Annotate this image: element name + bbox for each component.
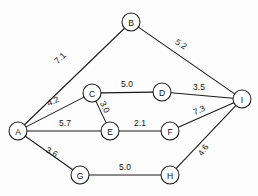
graph-canvas: 7.15.24.25.03.53.05.72.17.33.65.04.6 ABC… <box>0 0 258 196</box>
edge-weight-a-e: 5.7 <box>59 118 71 128</box>
edge-weight-e-f: 2.1 <box>134 118 146 128</box>
node-h[interactable]: H <box>161 166 179 184</box>
edge-weight-c-d: 5.0 <box>121 79 133 89</box>
edge-weight-d-i: 3.5 <box>193 82 205 92</box>
node-f[interactable]: F <box>161 122 179 140</box>
edge-f-i <box>178 103 234 128</box>
node-circle-h[interactable] <box>161 166 179 184</box>
node-a[interactable]: A <box>9 122 27 140</box>
node-circle-d[interactable] <box>153 83 171 101</box>
edge-b-i <box>138 27 234 94</box>
node-g[interactable]: G <box>71 166 89 184</box>
node-circle-a[interactable] <box>9 122 27 140</box>
edge-weight-a-b: 7.1 <box>52 50 68 66</box>
node-circle-g[interactable] <box>71 166 89 184</box>
edge-weight-a-g: 3.6 <box>44 145 59 160</box>
edge-weight-a-c: 4.2 <box>46 94 61 108</box>
edge-weight-f-i: 7.3 <box>192 103 207 117</box>
edge-d-i <box>171 93 233 98</box>
node-e[interactable]: E <box>101 122 119 140</box>
node-d[interactable]: D <box>153 83 171 101</box>
node-b[interactable]: B <box>122 13 140 31</box>
node-circle-i[interactable] <box>233 90 251 108</box>
edge-weight-c-e: 3.0 <box>98 99 112 114</box>
node-c[interactable]: C <box>83 84 101 102</box>
node-circle-b[interactable] <box>122 13 140 31</box>
node-circle-f[interactable] <box>161 122 179 140</box>
node-circle-c[interactable] <box>83 84 101 102</box>
node-circle-e[interactable] <box>101 122 119 140</box>
node-i[interactable]: I <box>233 90 251 108</box>
edge-c-d <box>101 92 153 93</box>
edge-weight-b-i: 5.2 <box>173 37 189 52</box>
edge-weight-g-h: 5.0 <box>119 162 131 172</box>
edge-weight-h-i: 4.6 <box>196 142 211 158</box>
graph-diagram: 7.15.24.25.03.53.05.72.17.33.65.04.6 ABC… <box>0 0 258 196</box>
